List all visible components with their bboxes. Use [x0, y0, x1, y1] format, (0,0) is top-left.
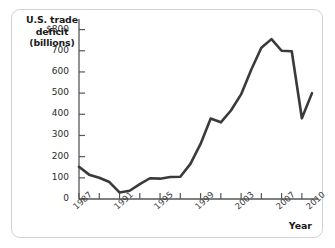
y-tick-label: 400	[20, 108, 69, 118]
y-tick-label: 700	[20, 45, 69, 55]
y-tick-label: 200	[20, 151, 69, 161]
y-tick-label: 300	[20, 129, 69, 139]
y-tick-label: 600	[20, 66, 69, 76]
y-tick-label: $800	[20, 24, 69, 34]
trade-deficit-line	[79, 39, 312, 192]
y-axis-tick-marks	[79, 30, 85, 199]
y-tick-label: 0	[20, 193, 69, 203]
y-tick-label: 500	[20, 87, 69, 97]
chart-figure-frame: U.S. trade deficit (billions) $800700600…	[11, 9, 323, 238]
y-tick-label: 100	[20, 172, 69, 182]
x-axis-title: Year	[289, 220, 312, 231]
x-axis-tick-marks	[79, 193, 302, 199]
axis-spines	[79, 19, 318, 199]
